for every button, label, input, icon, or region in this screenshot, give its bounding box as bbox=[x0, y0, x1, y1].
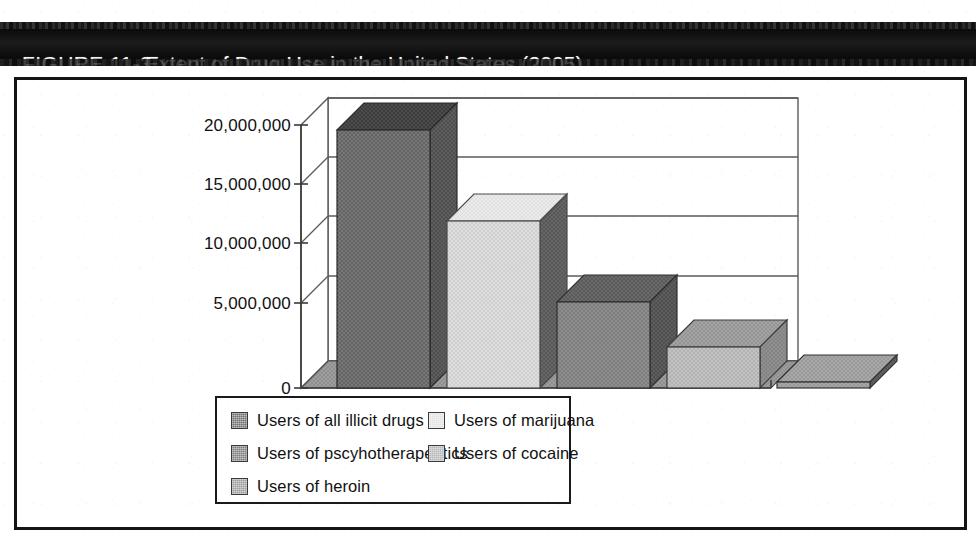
legend-label: Users of cocaine bbox=[454, 444, 579, 463]
figure-frame: 20,000,000 15,000,000 10,000,000 5,000,0… bbox=[14, 77, 967, 530]
legend-swatch-icon bbox=[231, 412, 248, 429]
bar-users-marijuana bbox=[447, 194, 567, 388]
legend-swatch-icon bbox=[231, 478, 248, 495]
legend-swatch-icon bbox=[428, 445, 445, 462]
chart-legend: Users of all illicit drugs Users of mari… bbox=[215, 396, 571, 504]
bar-users-psychotherapeutics bbox=[557, 275, 677, 388]
legend-label: Users of heroin bbox=[257, 477, 370, 496]
legend-label: Users of all illicit drugs bbox=[257, 411, 424, 430]
legend-item-heroin: Users of heroin bbox=[231, 474, 370, 498]
legend-item-all-illicit-drugs: Users of all illicit drugs bbox=[231, 408, 424, 432]
ytick-label-5m: 5,000,000 bbox=[41, 294, 291, 314]
legend-item-marijuana: Users of marijuana bbox=[428, 408, 594, 432]
bar-users-all-illicit-drugs bbox=[337, 103, 457, 388]
figure-title-text: Extent of Drug Use in the United States … bbox=[145, 52, 583, 66]
figure-banner: FIGURE 11-3 Extent of Drug Use in the Un… bbox=[0, 22, 976, 66]
legend-label: Users of marijuana bbox=[454, 411, 594, 430]
figure-number: FIGURE 11-3 bbox=[22, 52, 152, 66]
legend-item-cocaine: Users of cocaine bbox=[428, 441, 579, 465]
ytick-label-15m: 15,000,000 bbox=[41, 175, 291, 195]
legend-swatch-icon bbox=[428, 412, 445, 429]
ytick-label-20m: 20,000,000 bbox=[41, 116, 291, 136]
ytick-label-10m: 10,000,000 bbox=[41, 234, 291, 254]
legend-swatch-icon bbox=[231, 445, 248, 462]
bar-users-cocaine bbox=[667, 320, 787, 388]
